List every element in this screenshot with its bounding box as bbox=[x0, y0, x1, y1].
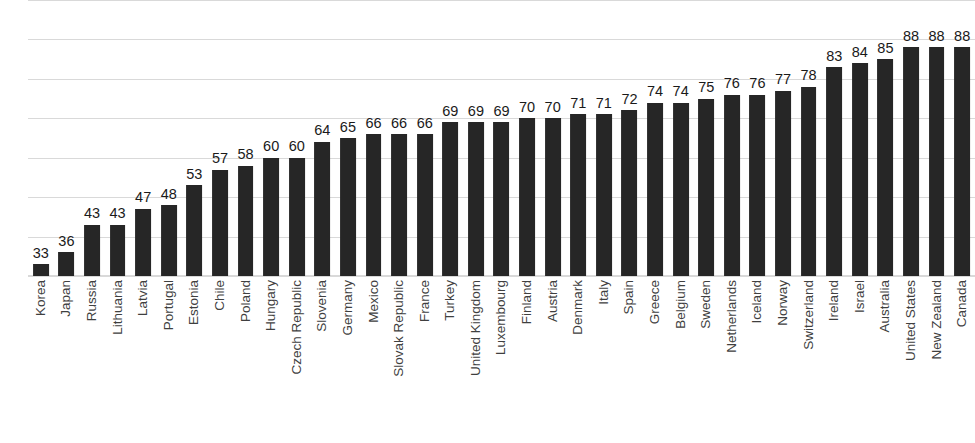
category-label: Ireland bbox=[827, 280, 841, 321]
category-label: Latvia bbox=[136, 280, 150, 316]
bar[interactable] bbox=[340, 138, 356, 276]
category-label: Korea bbox=[34, 280, 48, 316]
category-label-slot: Chile bbox=[207, 278, 233, 443]
category-label-slot: United States bbox=[898, 278, 924, 443]
bar[interactable] bbox=[775, 91, 791, 276]
category-label-slot: Australia bbox=[873, 278, 899, 443]
bar-slot: 33 bbox=[28, 0, 54, 276]
bar[interactable] bbox=[519, 118, 535, 276]
bar[interactable] bbox=[673, 103, 689, 276]
bar[interactable] bbox=[698, 99, 714, 276]
category-label: Iceland bbox=[751, 280, 765, 324]
bars-group: 3336434347485357586060646566666669696970… bbox=[28, 0, 975, 276]
bar[interactable] bbox=[877, 59, 893, 276]
bar[interactable] bbox=[929, 47, 945, 276]
bar[interactable] bbox=[58, 252, 74, 276]
bar-slot: 60 bbox=[258, 0, 284, 276]
bar[interactable] bbox=[647, 103, 663, 276]
bar-value-label: 47 bbox=[135, 190, 151, 205]
category-label: Lithuania bbox=[111, 280, 125, 335]
bar-slot: 60 bbox=[284, 0, 310, 276]
category-label-slot: Hungary bbox=[258, 278, 284, 443]
category-label-slot: Turkey bbox=[438, 278, 464, 443]
bar[interactable] bbox=[366, 134, 382, 276]
bar-slot: 47 bbox=[130, 0, 156, 276]
bar[interactable] bbox=[33, 264, 49, 276]
category-label: Portugal bbox=[162, 280, 176, 330]
category-label-slot: Switzerland bbox=[796, 278, 822, 443]
bar[interactable] bbox=[801, 87, 817, 276]
bar[interactable] bbox=[852, 63, 868, 276]
bar-slot: 69 bbox=[438, 0, 464, 276]
category-label: Denmark bbox=[572, 280, 586, 335]
category-label: United States bbox=[904, 280, 918, 361]
bar-slot: 85 bbox=[873, 0, 899, 276]
category-label: Belgium bbox=[674, 280, 688, 329]
bar-slot: 69 bbox=[489, 0, 515, 276]
category-label: Sweden bbox=[700, 280, 714, 329]
bar-slot: 76 bbox=[719, 0, 745, 276]
bar[interactable] bbox=[186, 185, 202, 276]
category-label: Czech Republic bbox=[290, 280, 304, 375]
bar-chart: 3336434347485357586060646566666669696970… bbox=[0, 0, 975, 443]
bar[interactable] bbox=[570, 114, 586, 276]
category-label-slot: Sweden bbox=[693, 278, 719, 443]
bar-value-label: 88 bbox=[903, 29, 919, 44]
bar[interactable] bbox=[494, 122, 510, 276]
bar-slot: 78 bbox=[796, 0, 822, 276]
bar-value-label: 43 bbox=[110, 206, 126, 221]
bar-value-label: 74 bbox=[673, 84, 689, 99]
category-label-slot: France bbox=[412, 278, 438, 443]
bar-slot: 70 bbox=[540, 0, 566, 276]
bar[interactable] bbox=[161, 205, 177, 276]
bar[interactable] bbox=[238, 166, 254, 276]
bar-value-label: 84 bbox=[852, 45, 868, 60]
category-label-slot: Slovenia bbox=[310, 278, 336, 443]
category-label: Luxembourg bbox=[495, 280, 509, 355]
bar[interactable] bbox=[903, 47, 919, 276]
category-label-slot: Greece bbox=[642, 278, 668, 443]
bar[interactable] bbox=[263, 158, 279, 276]
bar-value-label: 48 bbox=[161, 187, 177, 202]
category-label: Slovak Republic bbox=[392, 280, 406, 377]
bar-value-label: 76 bbox=[749, 76, 765, 91]
bar[interactable] bbox=[417, 134, 433, 276]
bar[interactable] bbox=[391, 134, 407, 276]
category-label-slot: Belgium bbox=[668, 278, 694, 443]
bar[interactable] bbox=[84, 225, 100, 276]
bar-slot: 77 bbox=[770, 0, 796, 276]
bar[interactable] bbox=[750, 95, 766, 276]
bar[interactable] bbox=[724, 95, 740, 276]
bar-slot: 66 bbox=[386, 0, 412, 276]
bar-slot: 53 bbox=[182, 0, 208, 276]
bar[interactable] bbox=[622, 110, 638, 276]
bar[interactable] bbox=[954, 47, 970, 276]
bar-value-label: 69 bbox=[468, 104, 484, 119]
bar-slot: 57 bbox=[207, 0, 233, 276]
bar[interactable] bbox=[826, 67, 842, 276]
bar-value-label: 65 bbox=[340, 120, 356, 135]
bar-slot: 84 bbox=[847, 0, 873, 276]
bar-value-label: 71 bbox=[570, 96, 586, 111]
bar[interactable] bbox=[314, 142, 330, 276]
category-label-slot: Latvia bbox=[130, 278, 156, 443]
bar[interactable] bbox=[289, 158, 305, 276]
bar-slot: 70 bbox=[514, 0, 540, 276]
bar-slot: 88 bbox=[949, 0, 975, 276]
bar[interactable] bbox=[442, 122, 458, 276]
category-label-slot: Netherlands bbox=[719, 278, 745, 443]
category-label-slot: Norway bbox=[770, 278, 796, 443]
category-label: Netherlands bbox=[725, 280, 739, 353]
bar[interactable] bbox=[110, 225, 126, 276]
bar[interactable] bbox=[212, 170, 228, 276]
bar[interactable] bbox=[545, 118, 561, 276]
category-label: Italy bbox=[597, 280, 611, 305]
bar[interactable] bbox=[468, 122, 484, 276]
bar-value-label: 78 bbox=[801, 68, 817, 83]
bar[interactable] bbox=[135, 209, 151, 276]
category-label-slot: Israel bbox=[847, 278, 873, 443]
category-label-slot: Russia bbox=[79, 278, 105, 443]
bar[interactable] bbox=[596, 114, 612, 276]
bar-value-label: 60 bbox=[289, 139, 305, 154]
category-label: Mexico bbox=[367, 280, 381, 323]
